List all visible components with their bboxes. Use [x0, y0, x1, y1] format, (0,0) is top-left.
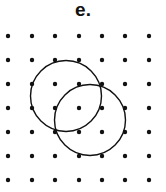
grid-dot [77, 178, 81, 182]
grid-dot [147, 106, 151, 110]
grid-dot [30, 178, 34, 182]
grid-dot [147, 34, 151, 38]
circle-2 [55, 85, 126, 156]
grid-dot [53, 178, 57, 182]
grid-dot [100, 58, 104, 62]
grid-dot [100, 130, 104, 134]
grid-dot [123, 34, 127, 38]
grid-dot [77, 130, 81, 134]
grid-dot [123, 178, 127, 182]
dot-grid-diagram [0, 0, 166, 192]
grid-dot [147, 178, 151, 182]
grid-dot [53, 154, 57, 158]
grid-dot [53, 34, 57, 38]
grid-dot [100, 178, 104, 182]
grid-dot [53, 82, 57, 86]
grid-dot [6, 34, 10, 38]
grid-dot [100, 34, 104, 38]
grid-dot [6, 82, 10, 86]
grid-dot [147, 130, 151, 134]
grid-dot [30, 34, 34, 38]
grid-dot [6, 154, 10, 158]
grid-dot [147, 154, 151, 158]
grid-dot [147, 58, 151, 62]
grid-dot [123, 154, 127, 158]
grid-dot [6, 58, 10, 62]
dot-grid [6, 34, 151, 182]
grid-dot [123, 58, 127, 62]
grid-dot [6, 106, 10, 110]
grid-dot [30, 58, 34, 62]
grid-dot [6, 178, 10, 182]
grid-dot [30, 130, 34, 134]
grid-dot [30, 154, 34, 158]
grid-dot [77, 58, 81, 62]
circle-1 [31, 61, 102, 132]
grid-dot [6, 130, 10, 134]
grid-dot [147, 82, 151, 86]
grid-dot [77, 106, 81, 110]
grid-dot [77, 34, 81, 38]
grid-dot [123, 82, 127, 86]
